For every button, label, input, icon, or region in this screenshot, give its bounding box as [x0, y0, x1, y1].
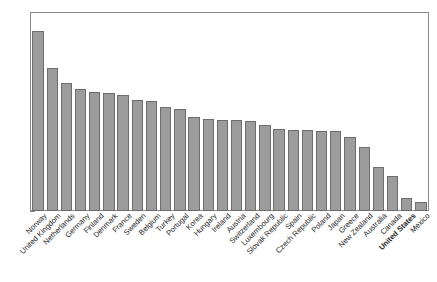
y-axis: 0123456: [0, 0, 30, 282]
bar: [401, 198, 412, 211]
bar: [188, 117, 199, 211]
bar: [359, 147, 370, 211]
bar: [32, 31, 43, 211]
bar: [160, 107, 171, 211]
bar-series: [31, 13, 428, 211]
bar: [302, 130, 313, 211]
bar: [273, 129, 284, 212]
bar: [373, 167, 384, 211]
bar: [132, 100, 143, 211]
bar: [330, 131, 341, 211]
bar: [217, 120, 228, 211]
bar: [174, 109, 185, 211]
bar: [103, 93, 114, 211]
bar: [245, 121, 256, 211]
bar: [387, 176, 398, 211]
x-axis-labels: NorwayUnited KingdomNetherlandsGermanyFi…: [31, 212, 428, 282]
bar-chart: 0123456 NorwayUnited KingdomNetherlandsG…: [0, 0, 437, 282]
bar: [231, 120, 242, 211]
bar: [47, 68, 58, 211]
bar: [75, 89, 86, 211]
bar: [61, 83, 72, 211]
bar: [89, 92, 100, 211]
bar: [146, 101, 157, 211]
bar: [344, 137, 355, 211]
bar: [259, 125, 270, 211]
bar: [288, 130, 299, 211]
bar: [415, 202, 426, 211]
bar: [316, 131, 327, 211]
bar: [117, 95, 128, 211]
bar: [203, 119, 214, 211]
